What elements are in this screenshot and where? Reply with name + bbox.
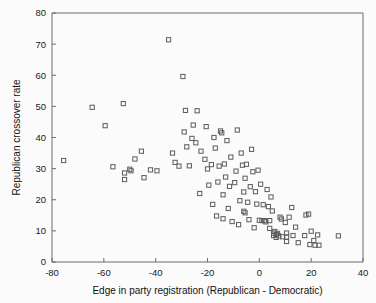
data-point [290,205,294,209]
x-tick-label: -20 [201,267,215,278]
x-tick-label: -60 [97,267,111,278]
data-point [243,211,247,215]
data-point [221,217,225,221]
x-tick-label: -80 [45,267,59,278]
data-point [216,180,220,184]
data-point [224,175,228,179]
data-point [242,190,246,194]
data-point [122,177,126,181]
y-tick-label: 10 [35,225,46,236]
data-point [182,130,186,134]
y-tick-label: 20 [35,194,46,205]
data-point [111,165,115,169]
data-point [103,124,107,128]
data-point [233,181,237,185]
data-point [243,176,247,180]
data-point [198,191,202,195]
data-point [249,147,253,151]
data-point [170,151,174,155]
data-point [121,101,125,105]
y-tick-label: 70 [35,39,46,50]
y-tick-labels: 01020304050607080 [35,7,46,267]
data-point [142,176,146,180]
data-point [214,214,218,218]
data-point [205,167,209,171]
data-point [187,164,191,168]
data-point [239,151,243,155]
x-tick-label: 0 [257,267,262,278]
data-point [265,187,269,191]
data-point [287,215,291,219]
data-point [213,146,217,150]
data-point [90,105,94,109]
x-axis-title: Edge in party registration (Republican -… [92,285,322,296]
data-point [212,135,216,139]
data-point [194,141,198,145]
data-point [229,155,233,159]
data-point [203,157,207,161]
data-point [62,158,66,162]
y-tick-label: 40 [35,132,46,143]
data-points [62,38,341,248]
data-point [230,219,234,223]
data-point [296,241,300,245]
data-point [183,108,187,112]
x-tick-label: 20 [306,267,317,278]
data-point [251,170,255,174]
x-tick-label: -40 [149,267,163,278]
axis-titles: Edge in party registration (Republican -… [11,79,323,296]
data-point [247,218,251,222]
y-axis-ticks [52,13,56,262]
data-point [246,200,250,204]
data-point [242,209,246,213]
x-tick-labels: -80-60-40-2002040 [45,267,368,278]
y-tick-label: 80 [35,7,46,18]
y-tick-label: 30 [35,163,46,174]
data-point [128,167,132,171]
data-point [222,162,226,166]
data-point [262,219,266,223]
data-point [209,162,213,166]
data-point [199,149,203,153]
data-point [217,164,221,168]
data-point [238,199,242,203]
data-point [270,209,274,213]
data-point [185,145,189,149]
data-point [122,171,126,175]
data-point [268,226,272,230]
figure-container: -80-60-40-2002040 01020304050607080 Edge… [0,0,376,303]
data-point [316,233,320,237]
data-point [204,125,208,129]
data-point [256,168,260,172]
data-point [291,233,295,237]
data-point [234,169,238,173]
data-point [255,202,259,206]
data-point [221,193,225,197]
data-point [191,123,195,127]
data-point [225,139,229,143]
data-point [195,109,199,113]
data-point [266,205,270,209]
data-point [167,38,171,42]
data-point [248,185,252,189]
y-axis-title: Republican crossover rate [11,79,22,196]
data-point [237,223,241,227]
data-point [261,203,265,207]
data-point [139,149,143,153]
plot-frame [52,13,363,262]
x-axis-ticks [52,258,363,262]
data-point [133,157,137,161]
x-tick-label: 40 [358,267,369,278]
data-point [252,226,256,230]
data-point [259,182,263,186]
data-point [284,239,288,243]
y-tick-label: 0 [41,256,46,267]
data-point [211,202,215,206]
data-point [227,184,231,188]
data-point [309,229,313,233]
data-point [269,195,273,199]
scatter-plot: -80-60-40-2002040 01020304050607080 Edge… [0,0,376,303]
data-point [190,136,194,140]
y-tick-label: 60 [35,70,46,81]
data-point [336,234,340,238]
